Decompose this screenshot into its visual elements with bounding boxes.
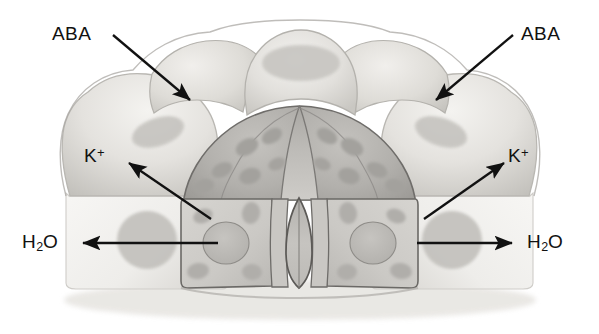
nucleus-epidermal-top: [262, 45, 340, 81]
label-potassium-right: K+: [508, 146, 529, 165]
label-potassium-left: K+: [84, 146, 105, 165]
label-potassium-left-charge: +: [97, 145, 105, 160]
stomatal-pore-wall-right: [311, 199, 329, 287]
label-aba-right-text: ABA: [521, 23, 560, 44]
nucleus-epidermal-lower-right: [422, 211, 482, 269]
label-potassium-left-symbol: K: [84, 145, 97, 166]
label-potassium-right-charge: +: [521, 145, 529, 160]
guard-cell-complex: [184, 106, 415, 200]
label-water-right: H2O: [527, 232, 563, 253]
label-aba-left: ABA: [52, 24, 91, 43]
subsidiary-cell-layer: [181, 198, 418, 298]
label-aba-right: ABA: [521, 24, 560, 43]
label-water-left-h: H: [22, 231, 36, 252]
stoma-diagram: ABA ABA K+ K+ H2O H2O: [0, 0, 599, 334]
label-potassium-right-symbol: K: [508, 145, 521, 166]
label-water-left-o: O: [43, 231, 58, 252]
label-water-right-h: H: [527, 231, 541, 252]
label-aba-left-text: ABA: [52, 23, 91, 44]
stoma-illustration: [0, 0, 599, 334]
nucleus-right: [350, 222, 396, 264]
stomatal-pore-wall-left: [271, 199, 289, 287]
label-water-left: H2O: [22, 232, 58, 253]
epidermal-cell-left-top-lobe: [150, 41, 256, 113]
nucleus-epidermal-lower-left: [117, 211, 177, 269]
label-water-right-o: O: [548, 231, 563, 252]
epidermal-cell-right-top-lobe: [343, 41, 449, 113]
